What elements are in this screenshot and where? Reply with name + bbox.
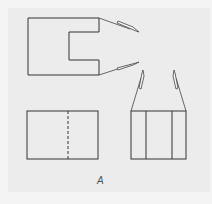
arrow-icon-side-1 [139,70,144,89]
figure-label: A [97,175,104,186]
arrow-icon-top-1 [117,21,139,32]
arrow-line-side-1 [131,78,141,111]
orthographic-drawing [0,0,212,204]
arrow-line-top-1 [99,18,130,29]
arrow-icon-side-2 [173,70,178,89]
front-view-outline [27,111,98,159]
arrow-icon-top-2 [117,62,139,70]
arrow-line-side-2 [176,78,186,111]
side-view-outline [131,111,186,159]
top-view-outline [28,18,99,75]
